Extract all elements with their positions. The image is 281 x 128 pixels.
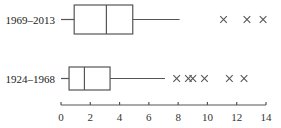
boxplot-chart: 1969–20131924–1968 02468101214 [0, 0, 281, 128]
outlier-x-icon [201, 75, 208, 82]
outlier-x-icon [220, 16, 227, 23]
iqr-box [69, 67, 110, 90]
x-tick-label: 0 [58, 111, 64, 123]
x-tick-label: 8 [175, 111, 181, 123]
outlier-x-icon [189, 75, 196, 82]
box-row: 1969–2013 [6, 5, 267, 34]
box-row: 1924–1968 [6, 67, 248, 90]
outlier-x-icon [226, 75, 233, 82]
outlier-x-icon [173, 75, 180, 82]
x-tick-label: 12 [231, 111, 242, 123]
x-tick-label: 2 [88, 111, 94, 123]
x-axis: 02468101214 [58, 102, 272, 123]
series-label: 1924–1968 [6, 73, 56, 85]
outlier-x-icon [241, 75, 248, 82]
x-tick-label: 6 [146, 111, 152, 123]
x-tick-label: 10 [202, 111, 214, 123]
outlier-x-icon [244, 16, 251, 23]
x-tick-label: 4 [117, 111, 123, 123]
outlier-x-icon [260, 16, 267, 23]
iqr-box [74, 5, 133, 34]
x-tick-label: 14 [261, 111, 273, 123]
series-label: 1969–2013 [6, 14, 56, 26]
